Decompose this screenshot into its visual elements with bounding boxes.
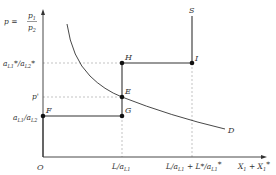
world-supply-demand-diagram: F G E H I S D p = p1 p2 aL1*/aL2* p' aL1… <box>0 0 276 175</box>
y-axis-title: p = p1 p2 <box>4 11 37 33</box>
x-axis-arrow-icon <box>261 155 267 159</box>
axes <box>41 9 267 159</box>
label-H: H <box>124 53 133 62</box>
point-I <box>190 61 195 66</box>
point-F <box>41 114 46 119</box>
label-F: F <box>45 106 52 115</box>
supply-curve <box>43 16 192 157</box>
xtick-L-over-aL1: L/aL1 <box>111 162 131 172</box>
x-axis-title: X1 + X1* <box>237 160 270 172</box>
y-title-lhs: p = <box>4 17 17 26</box>
point-H <box>120 61 125 66</box>
point-G <box>120 114 125 119</box>
label-S: S <box>189 6 195 15</box>
ytick-aL1star-aL2star: aL1*/aL2* <box>3 59 35 69</box>
label-G: G <box>125 106 132 115</box>
demand-curve <box>67 24 225 129</box>
label-I: I <box>194 54 199 63</box>
guide-lines <box>43 63 192 157</box>
y-title-num: p1 <box>28 11 36 21</box>
label-D: D <box>227 126 235 135</box>
point-E <box>120 95 125 100</box>
label-E: E <box>124 87 131 96</box>
ytick-p-prime: p' <box>32 92 39 101</box>
origin-label: O <box>37 163 44 172</box>
xtick-total: L/aL1 + L*/aL1* <box>165 160 222 172</box>
y-axis-arrow-icon <box>41 9 45 15</box>
ytick-aL1-aL2: aL1/aL2 <box>13 113 38 123</box>
y-title-den: p2 <box>28 23 36 33</box>
equilibrium-points <box>41 61 195 119</box>
